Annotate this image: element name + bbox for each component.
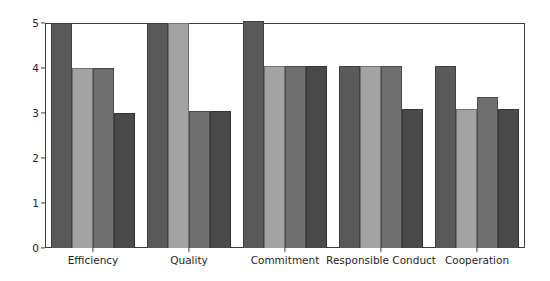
x-tick-mark bbox=[92, 248, 93, 252]
y-tick-label: 1 bbox=[11, 198, 39, 209]
y-tick-mark bbox=[41, 67, 45, 68]
x-tick-mark bbox=[188, 248, 189, 252]
x-tick-label: Quality bbox=[170, 255, 208, 267]
x-tick-label: Cooperation bbox=[445, 255, 509, 267]
x-tick-label: Responsible Conduct bbox=[326, 255, 436, 267]
y-tick-mark bbox=[41, 202, 45, 203]
x-tick-mark bbox=[476, 248, 477, 252]
x-tick-mark bbox=[284, 248, 285, 252]
plot-frame bbox=[45, 23, 525, 248]
y-tick-label: 2 bbox=[11, 153, 39, 164]
bar-chart: 012345EfficiencyQualityCommitmentRespons… bbox=[0, 0, 550, 281]
x-tick-label: Efficiency bbox=[68, 255, 119, 267]
y-tick-label: 3 bbox=[11, 108, 39, 119]
y-tick-label: 5 bbox=[11, 18, 39, 29]
y-tick-label: 4 bbox=[11, 63, 39, 74]
y-tick-mark bbox=[41, 22, 45, 23]
y-tick-mark bbox=[41, 112, 45, 113]
y-tick-label: 0 bbox=[11, 243, 39, 254]
x-tick-mark bbox=[380, 248, 381, 252]
y-tick-mark bbox=[41, 157, 45, 158]
x-tick-label: Commitment bbox=[251, 255, 320, 267]
y-tick-mark bbox=[41, 247, 45, 248]
